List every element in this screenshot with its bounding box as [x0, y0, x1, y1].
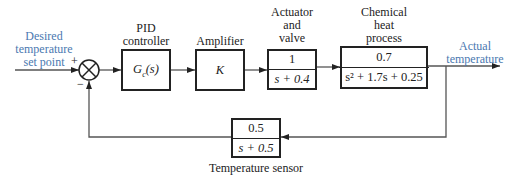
actuator-title: Actuator and valve	[262, 6, 322, 45]
process-block: 0.7 s² + 1.7s + 0.25	[340, 46, 428, 89]
process-fraction: 0.7 s² + 1.7s + 0.25	[339, 50, 429, 85]
denominator: s² + 1.7s + 0.25	[339, 67, 429, 85]
denominator: s + 0.5	[232, 138, 279, 156]
plus-sign: +	[71, 54, 78, 69]
output-label-line: temperature	[433, 53, 517, 66]
output-label: Actual temperature	[433, 40, 517, 66]
actuator-title-line: valve	[262, 32, 322, 45]
tf-main: G	[133, 62, 142, 76]
process-title: Chemical heat process	[349, 6, 419, 45]
sensor-fraction: 0.5 s + 0.5	[232, 121, 279, 156]
numerator: 1	[285, 52, 299, 69]
sensor-block: 0.5 s + 0.5	[231, 118, 281, 158]
numerator: 0.7	[372, 50, 396, 67]
pid-controller-block: Gc(s)	[121, 49, 171, 91]
pid-title-line: controller	[116, 35, 176, 48]
process-title-line: process	[349, 32, 419, 45]
numerator: 0.5	[244, 121, 268, 138]
actuator-fraction: 1 s + 0.4	[268, 52, 315, 87]
pid-transfer-function: Gc(s)	[133, 62, 159, 79]
amplifier-gain: K	[216, 63, 224, 78]
pid-title: PID controller	[116, 22, 176, 48]
sensor-title: Temperature sensor	[206, 162, 306, 175]
amplifier-block: K	[195, 49, 245, 91]
amplifier-title: Amplifier	[185, 35, 255, 48]
tf-arg: (s)	[146, 62, 159, 76]
minus-sign: −	[77, 77, 84, 92]
denominator: s + 0.4	[268, 69, 315, 87]
actuator-block: 1 s + 0.4	[267, 49, 317, 90]
